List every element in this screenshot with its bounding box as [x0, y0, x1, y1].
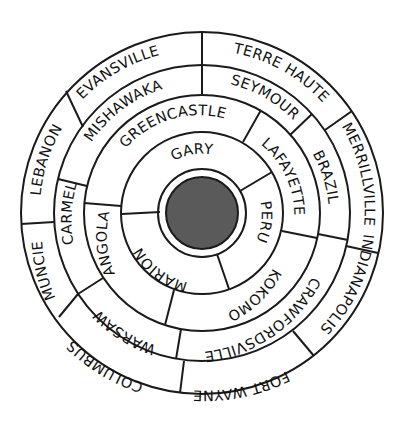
label-carmel: CARMEL [58, 180, 80, 246]
label-peru: PERU [253, 200, 274, 246]
city-ring-diagram: GARY PERU MARION GREENCASTLE LAFAYETTE K… [0, 0, 404, 421]
label-marion: MARION [130, 245, 189, 295]
label-muncie: MUNCIE [29, 240, 58, 303]
center-core-disc [166, 177, 238, 249]
label-fort-wayne: FORT WAYNE [192, 368, 292, 403]
label-warsaw: WARSAW [90, 307, 157, 358]
label-lebanon: LEBANON [28, 121, 66, 196]
label-gary: GARY [168, 141, 214, 164]
